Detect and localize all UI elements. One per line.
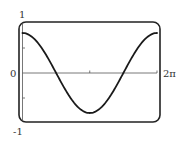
plot-svg: 1 0 -1 2π <box>0 0 182 142</box>
y-label-zero: 0 <box>10 68 16 79</box>
y-label-top: 1 <box>19 9 25 20</box>
x-label-end: 2π <box>163 68 176 79</box>
y-label-bottom: -1 <box>13 126 23 137</box>
graph-window: 1 0 -1 2π <box>0 0 182 142</box>
